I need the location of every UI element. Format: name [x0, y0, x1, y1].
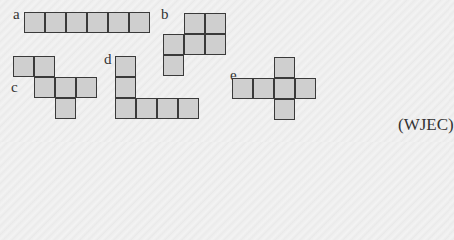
net-square	[34, 56, 55, 77]
net-square	[157, 98, 178, 119]
net-label: c	[11, 80, 18, 95]
net-square	[136, 98, 157, 119]
net-square	[34, 77, 55, 98]
net-square	[163, 55, 184, 76]
net-square	[108, 12, 129, 33]
net-square	[178, 98, 199, 119]
net-square	[274, 99, 295, 120]
net-square	[163, 34, 184, 55]
net-label: d	[104, 52, 112, 67]
net-square	[45, 12, 66, 33]
net-square	[13, 56, 34, 77]
net-square	[115, 77, 136, 98]
net-square	[274, 78, 295, 99]
net-square	[184, 34, 205, 55]
net-label: b	[161, 7, 169, 22]
net-square	[205, 13, 226, 34]
net-square	[129, 12, 150, 33]
net-square	[295, 78, 316, 99]
net-square	[205, 34, 226, 55]
net-square	[55, 77, 76, 98]
net-square	[24, 12, 45, 33]
net-square	[66, 12, 87, 33]
net-square	[87, 12, 108, 33]
net-square	[274, 57, 295, 78]
net-square	[115, 56, 136, 77]
net-label: a	[13, 7, 20, 22]
net-square	[253, 78, 274, 99]
net-square	[76, 77, 97, 98]
net-square	[55, 98, 76, 119]
net-square	[232, 78, 253, 99]
net-square	[115, 98, 136, 119]
net-square	[184, 13, 205, 34]
source-label: (WJEC)	[398, 115, 454, 135]
